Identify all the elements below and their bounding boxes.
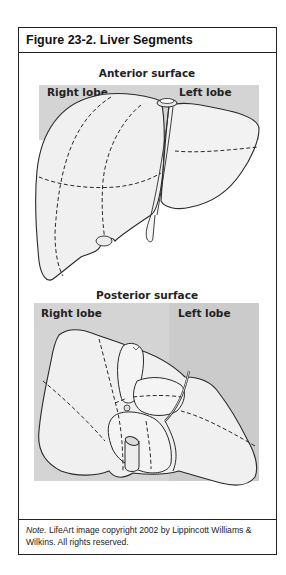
- note-prefix: Note.: [26, 525, 47, 535]
- anterior-view: Anterior surface Right lobe Left lobe: [36, 67, 259, 280]
- posterior-heading: Posterior surface: [96, 289, 198, 301]
- figure-title: Figure 23-2. Liver Segments: [26, 33, 193, 47]
- figure-body: Anterior surface Right lobe Left lobe: [19, 53, 276, 521]
- anterior-liver-outline: [36, 94, 165, 281]
- figure-note: Note. LifeArt image copyright 2002 by Li…: [19, 519, 276, 554]
- posterior-left-lobe-label: Left lobe: [178, 307, 231, 319]
- anterior-left-lobe-label: Left lobe: [179, 86, 232, 98]
- liver-segments-diagram: Anterior surface Right lobe Left lobe: [19, 53, 275, 521]
- posterior-right-lobe-label: Right lobe: [41, 307, 102, 319]
- figure-box: Figure 23-2. Liver Segments Anterior sur…: [18, 27, 277, 555]
- anterior-left-lobe-shape: [161, 103, 259, 208]
- posterior-view: Posterior surface Right lobe Left lobe: [34, 289, 259, 485]
- note-text: LifeArt image copyright 2002 by Lippinco…: [26, 525, 251, 547]
- figure-header: Figure 23-2. Liver Segments: [19, 28, 276, 53]
- anterior-heading: Anterior surface: [99, 67, 195, 79]
